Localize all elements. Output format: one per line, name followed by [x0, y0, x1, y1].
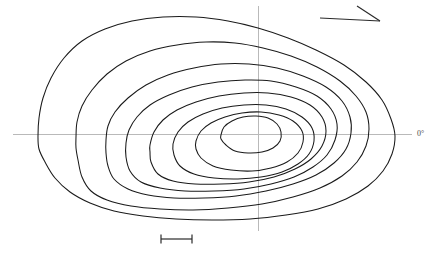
contour-line: [106, 63, 352, 198]
direction-arrow-shaft: [320, 18, 380, 21]
contour-plot-figure: 0°: [0, 0, 439, 258]
contour-line: [173, 105, 314, 179]
contour-line: [195, 112, 303, 171]
direction-arrow: [320, 6, 380, 21]
contour-line: [38, 16, 395, 220]
contour-plot-canvas: [0, 0, 439, 258]
zero-degree-axis-label: 0°: [417, 130, 424, 138]
contour-series-group: [38, 16, 395, 220]
contour-line: [126, 80, 338, 191]
direction-arrow-barb: [357, 6, 380, 21]
scale-bar: [161, 235, 192, 244]
